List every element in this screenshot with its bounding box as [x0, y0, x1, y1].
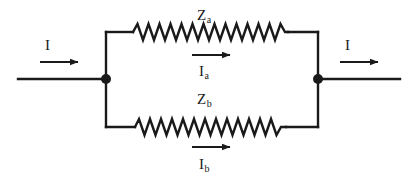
label-current-out-base: I	[345, 37, 350, 53]
label-current-a-subscript: a	[204, 70, 209, 81]
node-right-junction-dot	[313, 74, 323, 84]
label-impedance-b-base: Z	[197, 91, 206, 107]
node-left-junction-dot	[101, 74, 111, 84]
label-current-out: I	[345, 38, 350, 53]
resistor-zb-zigzag	[135, 119, 286, 135]
label-current-b-subscript: b	[204, 163, 210, 174]
label-impedance-a-base: Z	[197, 7, 206, 23]
label-impedance-a-subscript: a	[206, 14, 211, 25]
circuit-diagram: Za Zb Ia Ib I I	[0, 0, 415, 181]
label-current-in: I	[45, 38, 50, 53]
label-impedance-b-subscript: b	[206, 98, 212, 109]
resistor-za-zigzag	[133, 24, 288, 40]
label-current-b: Ib	[199, 157, 210, 174]
label-impedance-b: Zb	[197, 92, 212, 109]
circuit-schematic-canvas	[0, 0, 415, 181]
label-impedance-a: Za	[197, 8, 211, 25]
label-current-a: Ia	[199, 64, 209, 81]
label-current-in-base: I	[45, 37, 50, 53]
